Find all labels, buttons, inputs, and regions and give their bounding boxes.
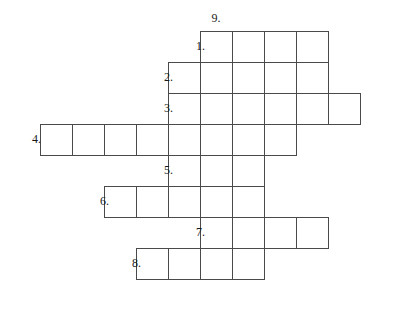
crossword-cell-r5-c6[interactable] [232, 186, 265, 218]
crossword-cell-r1-c5[interactable] [200, 62, 233, 94]
crossword-cell-r2-c5[interactable] [200, 93, 233, 125]
crossword-cell-r0-c7[interactable] [264, 31, 297, 63]
clue-number-across-5: 5. [164, 164, 173, 176]
crossword-cell-r0-c6[interactable] [232, 31, 265, 63]
crossword-cell-r6-c8[interactable] [296, 217, 329, 249]
crossword-cell-r0-c8[interactable] [296, 31, 329, 63]
crossword-cell-r3-c6[interactable] [232, 124, 265, 156]
crossword-cell-r6-c6[interactable] [232, 217, 265, 249]
clue-number-across-3: 3. [164, 102, 173, 114]
crossword-cell-r3-c5[interactable] [200, 124, 233, 156]
clue-number-across-4: 4. [32, 133, 41, 145]
clue-number-across-7: 7. [196, 226, 205, 238]
crossword-cell-r2-c8[interactable] [296, 93, 329, 125]
crossword-cell-r5-c3[interactable] [136, 186, 169, 218]
crossword-cell-r1-c6[interactable] [232, 62, 265, 94]
crossword-cell-r3-c2[interactable] [104, 124, 137, 156]
crossword-cell-r2-c9[interactable] [328, 93, 361, 125]
crossword-cell-r1-c8[interactable] [296, 62, 329, 94]
crossword-cell-r3-c3[interactable] [136, 124, 169, 156]
clue-number-across-2: 2. [164, 71, 173, 83]
crossword-cell-r5-c5[interactable] [200, 186, 233, 218]
crossword-cell-r5-c4[interactable] [168, 186, 201, 218]
crossword-cell-r3-c1[interactable] [72, 124, 105, 156]
crossword-cell-r7-c5[interactable] [200, 248, 233, 280]
clue-number-across-6: 6. [100, 195, 109, 207]
crossword-cell-r1-c7[interactable] [264, 62, 297, 94]
crossword-cell-r4-c5[interactable] [200, 155, 233, 187]
crossword-cell-r7-c6[interactable] [232, 248, 265, 280]
crossword-cell-r4-c6[interactable] [232, 155, 265, 187]
crossword-cell-r7-c4[interactable] [168, 248, 201, 280]
clue-number-across-1: 1. [196, 40, 205, 52]
clue-number-across-8: 8. [132, 257, 141, 269]
crossword-cell-r2-c7[interactable] [264, 93, 297, 125]
crossword-cell-r3-c7[interactable] [264, 124, 297, 156]
crossword-cell-r3-c4[interactable] [168, 124, 201, 156]
crossword-cell-r2-c6[interactable] [232, 93, 265, 125]
crossword-puzzle: 1.2.3.4.5.6.7.8.9. [0, 0, 393, 320]
crossword-cell-r6-c7[interactable] [264, 217, 297, 249]
crossword-cell-r3-c0[interactable] [40, 124, 73, 156]
clue-number-down-9: 9. [212, 12, 221, 24]
